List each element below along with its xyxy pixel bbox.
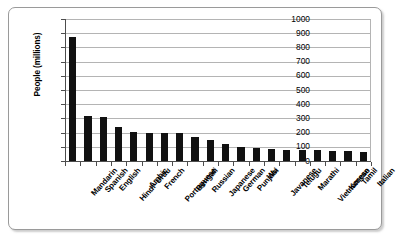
- y-tick-label: 300: [280, 114, 310, 122]
- bar: [115, 127, 122, 161]
- bar: [360, 152, 367, 161]
- bar: [253, 148, 260, 161]
- bar: [100, 117, 107, 161]
- gridline: [65, 33, 371, 34]
- x-tick-mark: [203, 162, 204, 166]
- bar: [314, 150, 321, 161]
- x-tick-mark: [356, 162, 357, 166]
- bar: [268, 149, 275, 161]
- bar: [207, 140, 214, 161]
- x-tick-mark: [295, 162, 296, 166]
- x-tick-mark: [340, 162, 341, 166]
- y-tick-label: 1000: [280, 15, 310, 23]
- gridline: [65, 147, 371, 148]
- x-tick-mark: [142, 162, 143, 166]
- x-tick-mark: [96, 162, 97, 166]
- chart-outer-frame: People (millions) 1000900800700600500400…: [8, 7, 382, 230]
- y-tick-label: 200: [280, 128, 310, 136]
- x-tick-mark: [279, 162, 280, 166]
- bar: [237, 147, 244, 161]
- x-tick-mark: [187, 162, 188, 166]
- bar: [161, 133, 168, 161]
- y-tick-label: 900: [280, 29, 310, 37]
- x-tick-mark: [325, 162, 326, 166]
- y-axis-title: People (millions): [33, 13, 42, 117]
- chart-figure: People (millions) 1000900800700600500400…: [0, 0, 400, 243]
- y-tick-label: 700: [280, 57, 310, 65]
- x-tick-mark: [233, 162, 234, 166]
- y-axis-spine: [65, 19, 66, 162]
- gridline: [65, 118, 371, 119]
- x-tick-mark: [218, 162, 219, 166]
- bar: [299, 150, 306, 161]
- x-tick-mark: [157, 162, 158, 166]
- bar: [222, 144, 229, 161]
- x-tick-mark: [172, 162, 173, 166]
- gridline: [65, 90, 371, 91]
- bar: [176, 133, 183, 161]
- gridline: [65, 62, 371, 63]
- bar: [191, 137, 198, 161]
- x-tick-label: Italian: [376, 166, 397, 188]
- x-tick-mark: [264, 162, 265, 166]
- plot-wrapper: 10009008007006005004003002001000 Mandari…: [65, 19, 371, 161]
- x-tick-mark: [65, 162, 66, 166]
- y-tick-label: 800: [280, 43, 310, 51]
- x-tick-mark: [126, 162, 127, 166]
- bar: [130, 132, 137, 161]
- bar: [146, 133, 153, 161]
- y-tick-label: 600: [280, 71, 310, 79]
- gridline: [65, 47, 371, 48]
- bar: [329, 151, 336, 161]
- gridline: [65, 104, 371, 105]
- y-tick-label: 400: [280, 100, 310, 108]
- gridline: [65, 76, 371, 77]
- bar: [283, 150, 290, 161]
- x-tick-mark: [80, 162, 81, 166]
- y-tick-label: 500: [280, 86, 310, 94]
- bar: [84, 116, 91, 161]
- gridline: [65, 133, 371, 134]
- bar: [344, 151, 351, 161]
- bar: [69, 37, 76, 161]
